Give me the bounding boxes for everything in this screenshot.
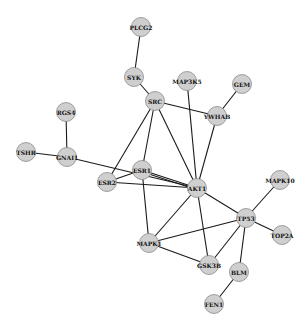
nodes-layer: PLCG2SYKSRCMAP3K5GEMYWHABRGS4TSHRGNAI1ES… [16,18,294,314]
network-graph: PLCG2SYKSRCMAP3K5GEMYWHABRGS4TSHRGNAI1ES… [0,0,308,328]
node-ywhab[interactable]: YWHAB [203,107,230,126]
edge-akt1-mapk1 [149,188,197,243]
node-akt1[interactable]: AKT1 [187,179,207,198]
node-tp53[interactable]: TP53 [237,209,256,228]
node-label: ESR1 [133,167,151,174]
node-tshr[interactable]: TSHR [16,143,36,162]
node-label: GEM [234,81,251,88]
edge-map3k5-akt1 [187,81,197,188]
node-label: PLCG2 [130,24,153,31]
node-map3k5[interactable]: MAP3K5 [172,72,201,91]
node-top2a[interactable]: TOP2A [270,226,293,245]
node-fen1[interactable]: FEN1 [205,295,224,314]
node-gem[interactable]: GEM [233,75,252,94]
node-esr1[interactable]: ESR1 [133,161,152,180]
edge-tp53-mapk1 [149,218,246,243]
node-label: MAPK1 [136,240,161,247]
node-label: RGS4 [57,109,76,116]
node-label: TOP2A [270,232,293,239]
node-gnai1[interactable]: GNAI1 [56,148,78,167]
node-plcg2[interactable]: PLCG2 [130,18,153,37]
node-label: YWHAB [203,113,230,120]
edge-src-akt1 [155,101,197,188]
node-label: MAP3K5 [172,78,201,85]
edge-akt1-gsk3b [197,188,209,265]
edge-esr1-mapk1 [142,170,149,243]
node-label: TSHR [16,149,36,156]
node-label: GSK3B [197,262,221,269]
node-mapk1[interactable]: MAPK1 [136,234,161,253]
node-label: TP53 [237,215,254,222]
node-label: BLM [231,269,247,276]
node-label: AKT1 [187,185,207,192]
edge-ywhab-akt1 [197,116,217,188]
node-blm[interactable]: BLM [230,263,249,282]
node-mapk10[interactable]: MAPK10 [265,171,294,190]
node-rgs4[interactable]: RGS4 [57,103,76,122]
node-label: FEN1 [205,301,224,308]
node-src[interactable]: SRC [146,92,165,111]
node-label: ESR2 [98,179,116,186]
node-label: GNAI1 [56,154,78,161]
node-label: MAPK10 [265,177,294,184]
node-esr2[interactable]: ESR2 [98,173,117,192]
node-syk[interactable]: SYK [125,68,144,87]
node-label: SRC [148,98,162,105]
node-gsk3b[interactable]: GSK3B [197,256,221,275]
node-label: SYK [127,74,142,81]
